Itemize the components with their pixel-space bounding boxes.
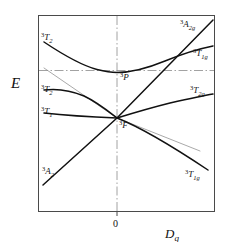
label-center-3f: 3F: [119, 119, 128, 131]
curve-guide-asymptote: [44, 68, 200, 151]
label-left-3t2-upper: 3T2: [41, 31, 53, 44]
label-left-3a2: 3A2: [42, 165, 55, 178]
label-left-3t2-mid: 3T2: [41, 83, 53, 96]
label-right-3t1g-upper: 3T1g: [193, 47, 209, 60]
curve-3t2-to-3t2g: [44, 89, 213, 118]
orgel-energy-diagram: 3T2 3T2 3T1 3A2 3A2g 3T1g 3T2g 3T1g 3P 3…: [0, 0, 231, 242]
diagram-canvas: 3T2 3T2 3T1 3A2 3A2g 3T1g 3T2g 3T1g 3P 3…: [0, 0, 231, 242]
label-center-3p: 3P: [120, 71, 129, 83]
x-axis-origin-tick-label: 0: [113, 218, 118, 229]
x-axis-label: Dq: [164, 226, 179, 242]
label-right-3a2g: 3A2g: [180, 18, 196, 31]
label-right-3t1g-lower: 3T1g: [185, 168, 201, 181]
y-axis-label: E: [10, 75, 20, 91]
label-left-3t1: 3T1: [41, 105, 53, 118]
curve-3a2-to-3a2g: [43, 20, 213, 185]
label-right-3t2g: 3T2g: [190, 84, 206, 97]
